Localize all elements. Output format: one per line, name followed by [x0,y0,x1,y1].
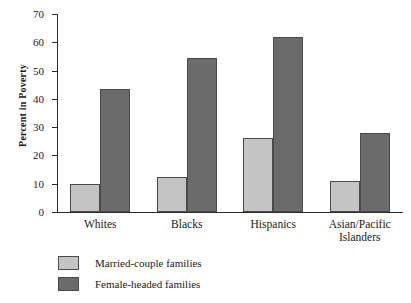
y-tick-label-60: 60 [33,36,44,48]
y-tick-label-20: 20 [33,149,44,161]
y-tick-label-50: 50 [33,65,44,77]
bar-blacks-female-headed-families [187,58,217,212]
bar-hispanics-married-couple-families [243,138,273,212]
x-label-hispanics: Hispanics [230,218,317,231]
bar-whites-female-headed-families [100,89,130,212]
chart-legend: Married-couple families Female-headed fa… [58,252,202,294]
bar-whites-married-couple-families [70,184,100,212]
bar-blacks-married-couple-families [157,177,187,212]
poverty-bar-chart: Percent in Poverty 010203040506070 White… [0,0,411,303]
plot-area: 010203040506070 WhitesBlacksHispanicsAsi… [57,14,403,212]
y-tick-label-0: 0 [39,206,45,218]
y-tick-label-30: 30 [33,121,44,133]
y-tick-70: 70 [52,14,57,15]
legend-swatch-married-couple [58,256,79,270]
legend-swatch-female-headed [58,277,79,291]
y-tick-40: 40 [52,99,57,100]
legend-label-married-couple: Married-couple families [95,257,202,269]
x-axis-line [57,212,403,213]
legend-item-married-couple: Married-couple families [58,252,202,273]
legend-item-female-headed: Female-headed families [58,273,202,294]
y-tick-10: 10 [52,184,57,185]
y-tick-label-10: 10 [33,178,44,190]
bar-asian-pacific-islanders-female-headed-families [360,133,390,212]
y-tick-label-70: 70 [33,8,44,20]
bar-asian-pacific-islanders-married-couple-families [330,181,360,212]
bar-hispanics-female-headed-families [273,37,303,212]
y-tick-60: 60 [52,42,57,43]
x-label-asian-pacific-islanders: Asian/Pacific Islanders [317,218,404,244]
y-axis-title: Percent in Poverty [17,26,28,186]
y-tick-label-40: 40 [33,93,44,105]
y-tick-20: 20 [52,155,57,156]
x-label-blacks: Blacks [144,218,231,231]
y-axis-line [57,14,58,213]
legend-label-female-headed: Female-headed families [95,278,200,290]
y-tick-30: 30 [52,127,57,128]
y-tick-50: 50 [52,71,57,72]
x-label-whites: Whites [57,218,144,231]
y-tick-0: 0 [52,212,57,213]
